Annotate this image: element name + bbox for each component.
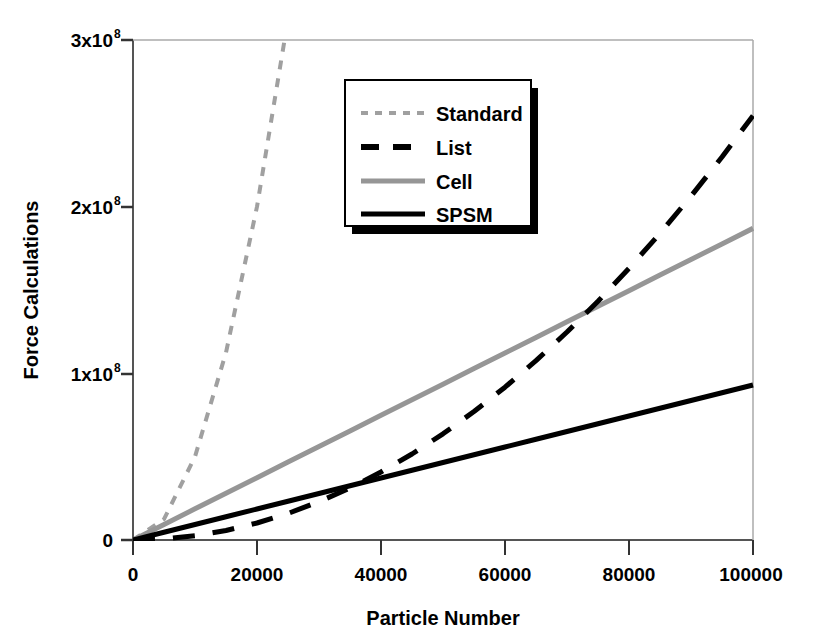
y-axis-title: Force Calculations (20, 201, 42, 380)
x-axis-title: Particle Number (366, 607, 520, 629)
y-tick-label-3e8: 3x10 (71, 30, 113, 51)
legend-label-list: List (436, 137, 472, 159)
y-tick-exp-2e8: 8 (114, 194, 121, 208)
chart-figure: 3x10 8 2x10 8 1x10 8 0 0 20000 40000 600… (0, 0, 820, 643)
x-tick-label-60000: 60000 (479, 564, 532, 585)
legend-label-standard: Standard (436, 103, 523, 125)
y-tick-exp-3e8: 8 (114, 27, 121, 41)
force-calculations-line-chart: 3x10 8 2x10 8 1x10 8 0 0 20000 40000 600… (0, 0, 820, 643)
y-tick-label-2e8: 2x10 (71, 197, 113, 218)
x-tick-label-0: 0 (128, 564, 139, 585)
x-tick-label-20000: 20000 (231, 564, 284, 585)
x-tick-label-80000: 80000 (603, 564, 656, 585)
x-tick-label-40000: 40000 (355, 564, 408, 585)
y-tick-label-1e8: 1x10 (71, 364, 113, 385)
legend-label-cell: Cell (436, 171, 473, 193)
y-tick-exp-1e8: 8 (114, 361, 121, 375)
legend-label-spsm: SPSM (436, 204, 493, 226)
legend[interactable]: Standard List Cell SPSM (345, 80, 538, 234)
x-tick-label-100000: 100000 (719, 564, 782, 585)
y-tick-label-0: 0 (102, 530, 113, 551)
